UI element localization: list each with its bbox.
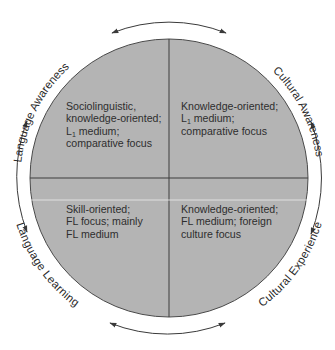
tr-line-2: L1 medium;: [181, 112, 278, 124]
bl-line-2: FL focus; mainly: [66, 215, 143, 227]
bl-line-3: FL medium: [66, 228, 143, 240]
quadrant-top-left-text: Sociolinguistic, knowledge-oriented; L1 …: [66, 100, 161, 149]
bottom-arrow: [110, 323, 225, 334]
tr-line-1: Knowledge-oriented;: [181, 100, 278, 112]
br-line-2: FL medium; foreign: [181, 215, 278, 227]
tr-line-3: comparative focus: [181, 125, 278, 137]
tl-line-1: Sociolinguistic,: [66, 100, 161, 112]
br-line-3: culture focus: [181, 228, 278, 240]
br-line-1: Knowledge-oriented;: [181, 203, 278, 215]
quadrant-bottom-left-text: Skill-oriented; FL focus; mainly FL medi…: [66, 203, 143, 240]
quadrant-circle-diagram: Language Awareness Cultural Awareness La…: [0, 0, 335, 350]
tr-l-suffix: medium;: [191, 112, 235, 124]
bl-line-1: Skill-oriented;: [66, 203, 143, 215]
top-arrow: [112, 22, 226, 33]
tl-line-3: L1 medium;: [66, 125, 161, 137]
tl-line-4: comparative focus: [66, 137, 161, 149]
quadrant-top-right-text: Knowledge-oriented; L1 medium; comparati…: [181, 100, 278, 137]
quadrant-bottom-right-text: Knowledge-oriented; FL medium; foreign c…: [181, 203, 278, 240]
tl-l-suffix: medium;: [76, 125, 120, 137]
tl-line-2: knowledge-oriented;: [66, 112, 161, 124]
